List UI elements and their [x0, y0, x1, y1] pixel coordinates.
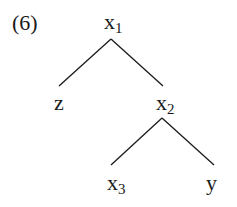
node-right-left-child: x3 — [107, 172, 126, 194]
node-root-sub: 1 — [115, 20, 123, 36]
node-right-child-base: x — [156, 90, 167, 115]
node-root-base: x — [104, 9, 115, 34]
edge-x2-x3 — [111, 118, 162, 165]
node-right-child-sub: 2 — [167, 101, 175, 117]
tree-diagram: (6) x1 z x2 x3 y — [0, 0, 237, 207]
node-right-child: x2 — [156, 92, 175, 114]
node-root: x1 — [104, 11, 123, 33]
example-number: (6) — [12, 12, 38, 34]
node-left-child-base: z — [54, 90, 64, 115]
node-right-left-child-base: x — [107, 170, 118, 195]
edge-x1-x2 — [111, 39, 163, 86]
node-right-right-child-base: y — [206, 170, 217, 195]
node-right-left-child-sub: 3 — [118, 181, 126, 197]
edge-x2-y — [162, 118, 214, 165]
node-left-child: z — [54, 92, 64, 114]
node-right-right-child: y — [206, 172, 217, 194]
edge-x1-z — [59, 39, 111, 86]
